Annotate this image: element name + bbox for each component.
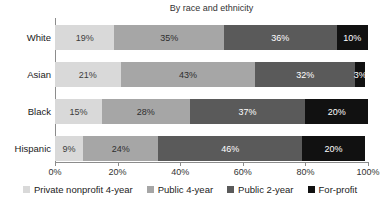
- x-tick: [180, 162, 181, 166]
- bar-segment: 32%: [255, 62, 355, 87]
- stacked-bar: 19%35%36%10%: [55, 25, 368, 50]
- legend-item: For-profit: [308, 184, 358, 195]
- x-tick: [368, 162, 369, 166]
- segment-label: 46%: [221, 144, 239, 154]
- x-tick-label: 60%: [234, 167, 252, 177]
- bar-row-black: Black15%28%37%20%: [0, 99, 368, 124]
- segment-label: 9%: [63, 144, 76, 154]
- segment-label: 19%: [76, 33, 94, 43]
- bar-segment: 28%: [102, 99, 190, 124]
- segment-label: 43%: [179, 70, 197, 80]
- category-label: White: [0, 32, 55, 43]
- legend-label: Public 4-year: [158, 184, 213, 195]
- bar-segment: 24%: [83, 136, 158, 161]
- category-label: Asian: [0, 69, 55, 80]
- bar-segment: 46%: [158, 136, 302, 161]
- x-tick-label: 80%: [296, 167, 314, 177]
- x-tick: [243, 162, 244, 166]
- segment-label: 28%: [137, 107, 155, 117]
- bar-segment: 9%: [55, 136, 83, 161]
- bar-segment: 36%: [224, 25, 337, 50]
- legend-label: For-profit: [319, 184, 358, 195]
- x-axis-line: [55, 162, 369, 163]
- bar-segment: 20%: [302, 136, 365, 161]
- legend-item: Public 4-year: [147, 184, 213, 195]
- legend-swatch: [23, 186, 30, 193]
- bar-segment: 19%: [55, 25, 114, 50]
- bar-segment: 20%: [305, 99, 368, 124]
- chart-container: By race and ethnicity White19%35%36%10%A…: [0, 0, 380, 206]
- x-tick-label: 100%: [356, 167, 379, 177]
- stacked-bar: 9%24%46%20%: [55, 136, 368, 161]
- stacked-bar: 21%43%32%3%: [55, 62, 368, 87]
- x-tick: [305, 162, 306, 166]
- stacked-bar: 15%28%37%20%: [55, 99, 368, 124]
- segment-label: 36%: [271, 33, 289, 43]
- x-tick-label: 40%: [171, 167, 189, 177]
- legend-label: Private nonprofit 4-year: [34, 184, 133, 195]
- bar-segment: 15%: [55, 99, 102, 124]
- segment-label: 15%: [69, 107, 87, 117]
- segment-label: 20%: [325, 144, 343, 154]
- segment-label: 32%: [296, 70, 314, 80]
- segment-label: 20%: [328, 107, 346, 117]
- segment-label: 37%: [238, 107, 256, 117]
- legend-swatch: [227, 186, 234, 193]
- bar-segment: 35%: [114, 25, 224, 50]
- segment-label: 10%: [343, 33, 361, 43]
- x-tick: [118, 162, 119, 166]
- plot-area: White19%35%36%10%Asian21%43%32%3%Black15…: [0, 20, 368, 173]
- bar-row-white: White19%35%36%10%: [0, 25, 368, 50]
- category-label: Hispanic: [0, 143, 55, 154]
- x-tick-label: 20%: [109, 167, 127, 177]
- legend: Private nonprofit 4-yearPublic 4-yearPub…: [0, 184, 380, 195]
- x-tick: [55, 162, 56, 166]
- x-tick-label: 0%: [48, 167, 61, 177]
- segment-label: 21%: [79, 70, 97, 80]
- segment-label: 3%: [354, 70, 367, 80]
- bar-segment: 21%: [55, 62, 121, 87]
- bar-segment: 10%: [337, 25, 368, 50]
- legend-item: Public 2-year: [227, 184, 293, 195]
- legend-item: Private nonprofit 4-year: [23, 184, 133, 195]
- bar-row-asian: Asian21%43%32%3%: [0, 62, 368, 87]
- chart-title: By race and ethnicity: [55, 3, 368, 13]
- category-label: Black: [0, 106, 55, 117]
- bar-segment: 3%: [355, 62, 364, 87]
- bar-segment: 37%: [190, 99, 306, 124]
- legend-swatch: [308, 186, 315, 193]
- bar-row-hispanic: Hispanic9%24%46%20%: [0, 136, 368, 161]
- bar-segment: 43%: [121, 62, 256, 87]
- legend-swatch: [147, 186, 154, 193]
- segment-label: 35%: [160, 33, 178, 43]
- legend-label: Public 2-year: [238, 184, 293, 195]
- segment-label: 24%: [112, 144, 130, 154]
